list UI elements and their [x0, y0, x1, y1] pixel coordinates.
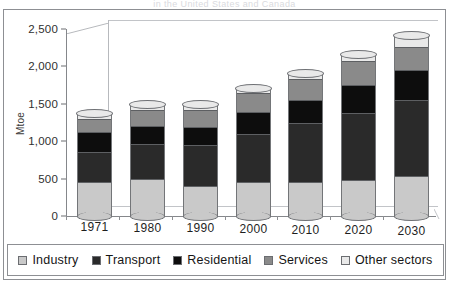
bar-segment-services: [342, 61, 375, 85]
x-tick-label: 2010: [276, 223, 335, 237]
x-tick-label: 2030: [382, 224, 441, 238]
bar-body: [394, 36, 429, 216]
bar-body: [77, 114, 112, 216]
chart-legend: IndustryTransportResidentialServicesOthe…: [7, 244, 444, 276]
bar-segment-services: [395, 47, 428, 70]
x-tick-label: 1971: [65, 220, 124, 234]
y-tick-label: 500: [12, 173, 58, 185]
chart-figure: in the United States and Canada Mtoe 050…: [0, 0, 449, 283]
legend-item-other-sectors[interactable]: Other sectors: [341, 253, 433, 267]
y-tick-label: 2,000: [12, 60, 58, 72]
bar-segment-residential: [289, 100, 322, 122]
bar-segment-services: [131, 110, 164, 126]
y-axis-labels: 05001,0001,5002,0002,500: [10, 10, 58, 240]
axis-back-top: [108, 20, 438, 21]
legend-label: Industry: [32, 253, 78, 267]
x-tick-mark: [66, 216, 67, 220]
bar-segment-residential: [237, 112, 270, 134]
x-tick-mark: [383, 216, 384, 220]
x-tick-mark: [277, 216, 278, 220]
y-axis-line: [66, 29, 67, 217]
bar-segment-services: [237, 93, 270, 112]
x-tick-mark: [172, 216, 173, 220]
bar-body: [341, 55, 376, 216]
bar-segment-residential: [184, 127, 217, 145]
bar-1990: [183, 105, 218, 216]
plot-area: Mtoe 05001,0001,5002,0002,500 1971198019…: [4, 10, 447, 240]
chart-title: in the United States and Canada: [0, 0, 449, 9]
bar-segment-residential: [78, 132, 111, 151]
bar-segment-industry: [342, 180, 375, 216]
legend-item-industry[interactable]: Industry: [18, 253, 78, 267]
x-tick-mark: [330, 216, 331, 220]
x-tick-mark: [225, 216, 226, 220]
x-tick-label: 1990: [171, 221, 230, 235]
bar-2030: [394, 36, 429, 216]
bar-segment-industry: [131, 179, 164, 216]
bar-body: [288, 74, 323, 216]
bar-segment-services: [78, 119, 111, 132]
x-tick-label: 2020: [329, 223, 388, 237]
bar-bottom-ellipse: [288, 212, 323, 221]
bar-segment-services: [289, 79, 322, 100]
bar-body: [236, 89, 271, 216]
x-tick-label: 1980: [118, 221, 177, 235]
legend-item-services[interactable]: Services: [264, 253, 328, 267]
legend-item-residential[interactable]: Residential: [173, 253, 251, 267]
bar-segment-transport: [78, 152, 111, 183]
legend-swatch-icon: [18, 256, 27, 265]
bar-body: [130, 105, 165, 216]
bar-segment-industry: [78, 182, 111, 216]
y-tick-label: 1,000: [12, 135, 58, 147]
y-tick-label: 0: [12, 210, 58, 222]
bar-bottom-ellipse: [341, 212, 376, 221]
legend-label: Residential: [187, 253, 251, 267]
bar-segment-transport: [342, 113, 375, 180]
bar-body: [183, 105, 218, 216]
bar-segment-services: [184, 110, 217, 127]
y-tick-label: 1,500: [12, 98, 58, 110]
bar-segment-residential: [131, 126, 164, 144]
bar-top-ellipse: [287, 69, 324, 78]
bar-2010: [288, 74, 323, 216]
bar-segment-industry: [237, 182, 270, 216]
bar-1980: [130, 105, 165, 216]
legend-swatch-icon: [92, 256, 101, 265]
bar-segment-residential: [342, 85, 375, 113]
bar-segment-industry: [289, 182, 322, 216]
legend-label: Services: [278, 253, 328, 267]
bar-segment-transport: [237, 134, 270, 183]
legend-swatch-icon: [264, 256, 273, 265]
y-tick-label: 2,500: [12, 23, 58, 35]
bar-segment-transport: [395, 100, 428, 176]
x-tick-label: 2000: [224, 222, 283, 236]
legend-item-transport[interactable]: Transport: [92, 253, 161, 267]
legend-label: Other sectors: [355, 253, 433, 267]
bar-2000: [236, 89, 271, 216]
bar-segment-industry: [395, 176, 428, 216]
bar-segment-residential: [395, 70, 428, 100]
bar-1971: [77, 114, 112, 216]
bar-bottom-ellipse: [183, 212, 218, 221]
bar-segment-transport: [184, 145, 217, 186]
bar-bottom-ellipse: [394, 212, 429, 221]
bar-top-ellipse: [235, 84, 272, 93]
bar-segment-transport: [289, 123, 322, 182]
x-tick-mark: [119, 216, 120, 220]
legend-swatch-icon: [341, 256, 350, 265]
bar-bottom-ellipse: [130, 212, 165, 221]
bar-segment-transport: [131, 144, 164, 178]
bar-2020: [341, 55, 376, 216]
axis-top-diagonal: [66, 20, 110, 31]
legend-label: Transport: [106, 253, 161, 267]
chart-frame: Mtoe 05001,0001,5002,0002,500 1971198019…: [3, 9, 446, 280]
legend-swatch-icon: [173, 256, 182, 265]
bar-bottom-ellipse: [236, 212, 271, 221]
